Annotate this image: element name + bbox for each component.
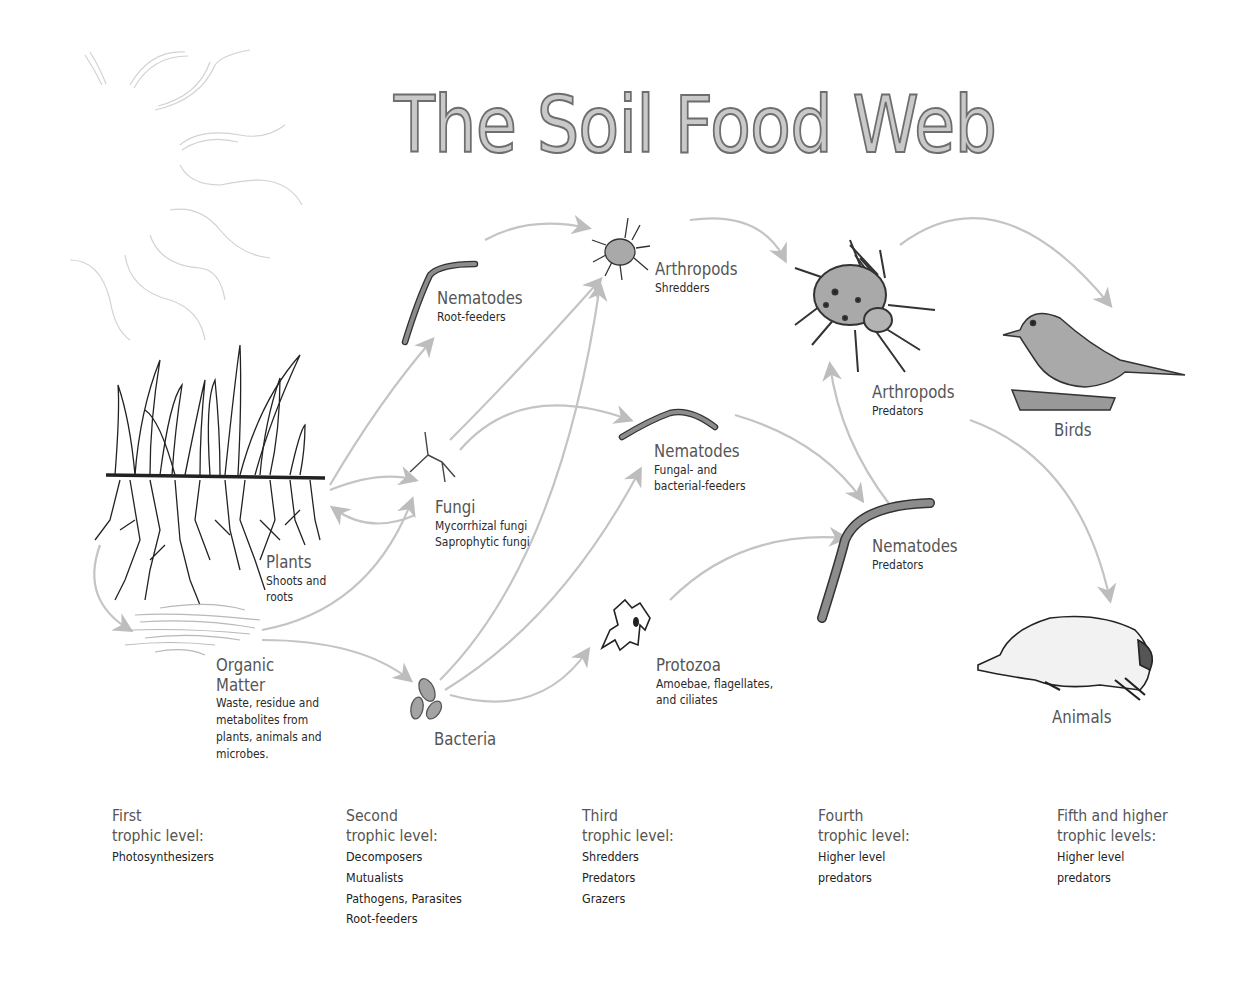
trophic-level-2: Second trophic level: Decomposers Mutual…	[346, 806, 481, 930]
level-item: Shredders	[582, 847, 672, 868]
level-item: Grazers	[582, 889, 672, 910]
node-subtitle: Predators	[872, 403, 953, 420]
node-title: Nematodes	[654, 442, 748, 462]
mole-icon	[978, 617, 1152, 701]
level-item: Root-feeders	[346, 909, 462, 930]
level-item: Decomposers	[346, 847, 462, 868]
node-title: Organic	[216, 656, 324, 676]
trophic-level-4: Fourth trophic level: Higher level preda…	[818, 806, 922, 889]
level-title: trophic level:	[582, 826, 674, 846]
node-subtitle: roots	[266, 589, 326, 606]
node-subtitle: Shoots and	[266, 573, 326, 590]
node-title: Nematodes	[872, 537, 958, 557]
level-title: trophic level:	[112, 826, 216, 846]
node-protozoa: Protozoa Amoebae, flagellates, and cilia…	[656, 656, 792, 709]
nematode-fungal-feeder-icon	[622, 412, 715, 437]
arthropod-predator-icon	[795, 240, 935, 372]
trophic-level-3: Third trophic level: Shredders Predators…	[582, 806, 686, 909]
node-fungi: Fungi Mycorrhizal fungi Saprophytic fung…	[435, 498, 545, 551]
node-nematodes-root-feeders: Nematodes Root-feeders	[437, 289, 534, 325]
level-item: Pathogens, Parasites	[346, 889, 462, 910]
level-item: predators	[1057, 868, 1165, 889]
node-title: Protozoa	[656, 656, 776, 676]
node-subtitle: Root-feeders	[437, 309, 521, 326]
level-item: Higher level	[1057, 847, 1165, 868]
node-title: Animals	[1052, 708, 1112, 728]
node-title: Arthropods	[655, 260, 738, 280]
bird-icon	[1003, 314, 1185, 410]
level-title: trophic levels:	[1057, 826, 1168, 846]
node-subtitle: Mycorrhizal fungi	[435, 518, 530, 535]
level-item: Photosynthesizers	[112, 847, 214, 868]
node-subtitle: bacterial-feeders	[654, 478, 745, 495]
level-item: Higher level	[818, 847, 908, 868]
node-subtitle: Fungal- and	[654, 462, 745, 479]
node-title: Arthropods	[872, 383, 955, 403]
trophic-level-1: First trophic level: Photosynthesizers	[112, 806, 230, 868]
node-nematodes-predators: Nematodes Predators	[872, 537, 969, 573]
level-title: First	[112, 806, 216, 826]
node-subtitle: microbes.	[216, 746, 322, 763]
protozoa-icon	[602, 600, 650, 650]
trophic-level-5: Fifth and higher trophic levels: Higher …	[1057, 806, 1183, 889]
bacteria-icon	[409, 676, 444, 721]
level-title: Second	[346, 806, 465, 826]
node-subtitle: Amoebae, flagellates,	[656, 676, 773, 693]
node-birds: Birds	[1054, 421, 1097, 441]
level-item: Predators	[582, 868, 672, 889]
level-title: Fourth	[818, 806, 910, 826]
node-subtitle: Saprophytic fungi	[435, 534, 530, 551]
node-title: Fungi	[435, 498, 532, 518]
node-arthropods-shredders: Arthropods Shredders	[655, 260, 749, 296]
energy-flow-arrows	[94, 218, 1110, 701]
organic-matter-icon	[125, 604, 260, 655]
node-bacteria: Bacteria	[434, 730, 505, 750]
level-item: Mutualists	[346, 868, 462, 889]
node-subtitle: and ciliates	[656, 692, 773, 709]
node-subtitle: plants, animals and	[216, 729, 322, 746]
node-subtitle: Predators	[872, 557, 956, 574]
node-arthropods-predators: Arthropods Predators	[872, 383, 966, 419]
node-title: Bacteria	[434, 730, 496, 750]
node-subtitle: Waste, residue and	[216, 695, 322, 712]
node-subtitle: Shredders	[655, 280, 736, 297]
node-title: Matter	[216, 676, 324, 696]
node-plants: Plants Shoots and roots	[266, 553, 336, 606]
node-title: Nematodes	[437, 289, 523, 309]
node-title: Plants	[266, 553, 328, 573]
node-title: Birds	[1054, 421, 1092, 441]
node-organic-matter: Organic Matter Waste, residue and metabo…	[216, 656, 339, 763]
level-title: trophic level:	[346, 826, 465, 846]
arthropod-shredder-icon	[592, 218, 650, 280]
node-subtitle: metabolites from	[216, 712, 322, 729]
node-animals: Animals	[1052, 708, 1120, 728]
fungi-icon	[410, 432, 455, 482]
node-nematodes-fungal-bacterial: Nematodes Fungal- and bacterial-feeders	[654, 442, 760, 495]
sun-rays-icon	[70, 50, 302, 340]
level-title: Fifth and higher	[1057, 806, 1168, 826]
level-title: trophic level:	[818, 826, 910, 846]
level-item: predators	[818, 868, 908, 889]
level-title: Third	[582, 806, 674, 826]
